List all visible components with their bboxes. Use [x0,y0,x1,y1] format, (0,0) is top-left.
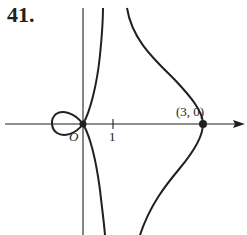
origin-point [80,121,87,128]
point-3-0 [199,120,207,128]
curve-graph [0,0,247,235]
point-label-3-0: (3, 0) [176,104,204,120]
x-tick-label-1: 1 [109,129,116,145]
curve-outer-branch [127,8,203,235]
curve-inner-branch-lower [83,124,105,235]
curve-inner-branch-upper [83,8,103,124]
origin-label: O [69,129,78,145]
